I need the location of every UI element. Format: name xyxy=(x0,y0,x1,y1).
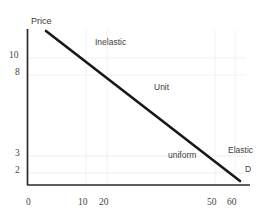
annotation-uniform: uniform xyxy=(168,151,196,160)
x-tick-label-50: 50 xyxy=(207,198,217,208)
y-tick-label-10: 10 xyxy=(9,51,19,61)
x-tick-label-10: 10 xyxy=(78,198,88,208)
annotation-demand-curve-d: D xyxy=(245,165,251,174)
annotation-inelastic: Inelastic xyxy=(95,38,126,47)
y-tick-label-2: 2 xyxy=(15,166,20,176)
x-tick-label-20: 20 xyxy=(99,198,109,208)
y-tick-label-8: 8 xyxy=(15,68,20,78)
x-tick-label-60: 60 xyxy=(227,198,237,208)
chart-canvas xyxy=(0,0,274,220)
demand-curve-chart: Price 10 8 3 2 0 10 20 50 60 Inelastic U… xyxy=(0,0,274,220)
y-axis-title: Price xyxy=(31,17,52,26)
annotation-elastic: Elastic xyxy=(228,146,253,155)
annotation-unit: Unit xyxy=(154,83,169,92)
y-tick-label-3: 3 xyxy=(15,149,20,159)
demand-curve-line xyxy=(46,31,240,181)
x-tick-label-0: 0 xyxy=(26,198,31,208)
